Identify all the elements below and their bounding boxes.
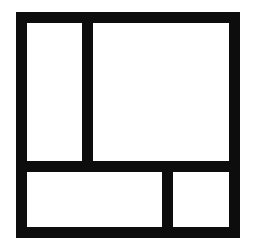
layout-diagram xyxy=(0,0,256,251)
frame-bottom xyxy=(16,227,240,238)
frame-top xyxy=(17,12,240,23)
frame-left xyxy=(16,12,27,238)
frame-right xyxy=(229,12,240,238)
divider-horizontal xyxy=(16,161,240,172)
divider-vertical-bottom xyxy=(162,161,173,238)
panel-top-left xyxy=(27,23,82,161)
panel-bottom-right xyxy=(173,172,229,227)
panel-top-right xyxy=(93,23,229,161)
divider-vertical-top xyxy=(82,12,93,172)
panel-bottom-left xyxy=(27,172,162,227)
